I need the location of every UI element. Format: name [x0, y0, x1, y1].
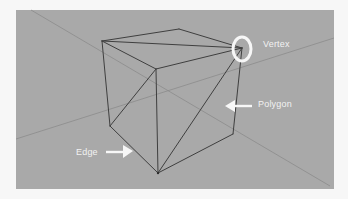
grid-axes	[16, 10, 334, 186]
edge-top-left-back	[102, 29, 179, 41]
edge-label: Edge	[76, 147, 98, 157]
polygon-arrow-icon	[225, 100, 252, 112]
axis-line-y	[31, 10, 330, 186]
edge-top-left-front	[102, 41, 156, 69]
edge-arrow-icon	[106, 145, 133, 158]
edge-bottom-left	[110, 126, 158, 173]
axis-line-x	[16, 38, 334, 139]
vertex-point	[157, 172, 159, 174]
edge-left-face-diagonal	[110, 69, 156, 126]
edge-top-front-right	[156, 48, 242, 69]
edge-bottom-right	[158, 134, 233, 173]
cube-wireframe-diagram	[0, 0, 348, 199]
polygon-label: Polygon	[258, 99, 292, 109]
edge-right-face-diagonal	[158, 48, 242, 173]
vertex-label: Vertex	[263, 39, 290, 49]
